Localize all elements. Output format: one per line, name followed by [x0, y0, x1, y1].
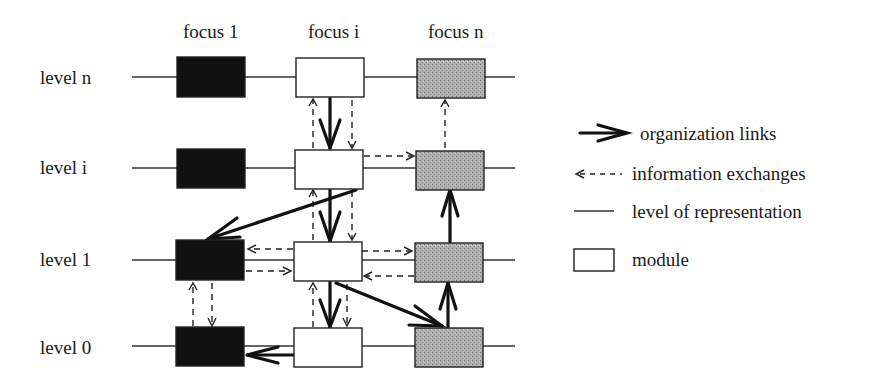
row-label-level-i: level i	[40, 158, 87, 177]
module-focusn-level-n	[417, 59, 485, 98]
legend-graphics	[574, 125, 627, 271]
diagram-graphics	[0, 0, 875, 385]
legend-module-label: module	[632, 250, 689, 269]
column-label-focus-n: focus n	[428, 22, 483, 41]
row-label-level-1: level 1	[40, 250, 91, 269]
column-label-focus-1: focus 1	[183, 22, 238, 41]
module-focusn-level-1	[415, 243, 483, 282]
legend-level-of-representation-label: level of representation	[632, 202, 802, 221]
legend-information-exchange-icon	[576, 170, 622, 178]
legend-module-icon	[574, 249, 614, 271]
module-focusi-level-i	[295, 150, 363, 189]
module-focusn-level-i	[416, 151, 484, 190]
module-focus1-level-0	[176, 327, 244, 366]
row-label-level-0: level 0	[40, 338, 91, 357]
module-focusi-level-0	[294, 328, 362, 367]
organization-links	[208, 98, 458, 363]
legend-organization-links-label: organization links	[640, 124, 776, 143]
legend-organization-link-icon	[580, 125, 627, 141]
module-focus1-level-n	[177, 57, 245, 97]
module-focusi-level-n	[296, 58, 364, 97]
module-focusn-level-0	[415, 328, 483, 367]
row-label-level-n: level n	[40, 68, 91, 87]
module-focus1-level-i	[177, 149, 245, 188]
module-focusi-level-1	[294, 242, 362, 281]
module-focus1-level-1	[176, 240, 244, 280]
column-label-focus-i: focus i	[308, 22, 359, 41]
legend-information-exchanges-label: information exchanges	[632, 164, 806, 183]
focus-level-diagram: focus 1 focus i focus n level n level i …	[0, 0, 875, 385]
